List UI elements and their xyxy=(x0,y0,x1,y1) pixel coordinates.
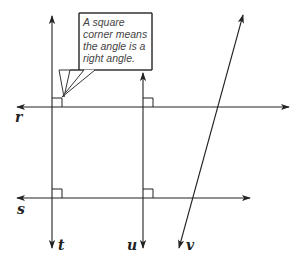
line-v xyxy=(179,15,243,248)
right-angle-marker-s-u xyxy=(143,189,153,198)
label-s: s xyxy=(17,201,25,217)
label-r: r xyxy=(15,109,24,125)
callout-line-4: right angle. xyxy=(83,52,135,64)
perpendicular-lines-diagram: A square corner means the angle is a rig… xyxy=(0,0,299,266)
right-angle-marker-s-t xyxy=(52,189,62,198)
callout-line-1: A square xyxy=(82,16,125,28)
right-angle-marker-r-u xyxy=(143,98,153,107)
label-u: u xyxy=(127,237,137,253)
label-v: v xyxy=(186,237,195,253)
label-t: t xyxy=(58,237,65,253)
callout: A square corner means the angle is a rig… xyxy=(59,13,152,97)
callout-line-3: the angle is a xyxy=(83,40,146,52)
right-angle-marker-r-t xyxy=(52,98,62,107)
callout-line-2: corner means xyxy=(83,28,148,40)
